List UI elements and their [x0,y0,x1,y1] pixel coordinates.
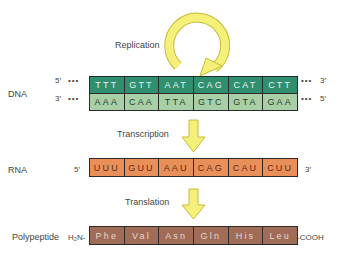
amino-acid: Gln [194,227,229,244]
amino-acid: His [229,227,264,244]
polypeptide-chain: Phe Val Asn Gln His Leu [89,226,298,245]
n-terminus: H₂N- [68,233,85,242]
amino-acid: Val [125,227,160,244]
translation-label: Translation [125,197,169,207]
amino-acid: Asn [159,227,194,244]
amino-acid: Leu [263,227,297,244]
amino-acid: Phe [90,227,125,244]
polypeptide-label: Polypeptide [12,232,59,242]
c-terminus: -COOH [297,233,324,242]
translation-arrow-icon [0,0,339,253]
